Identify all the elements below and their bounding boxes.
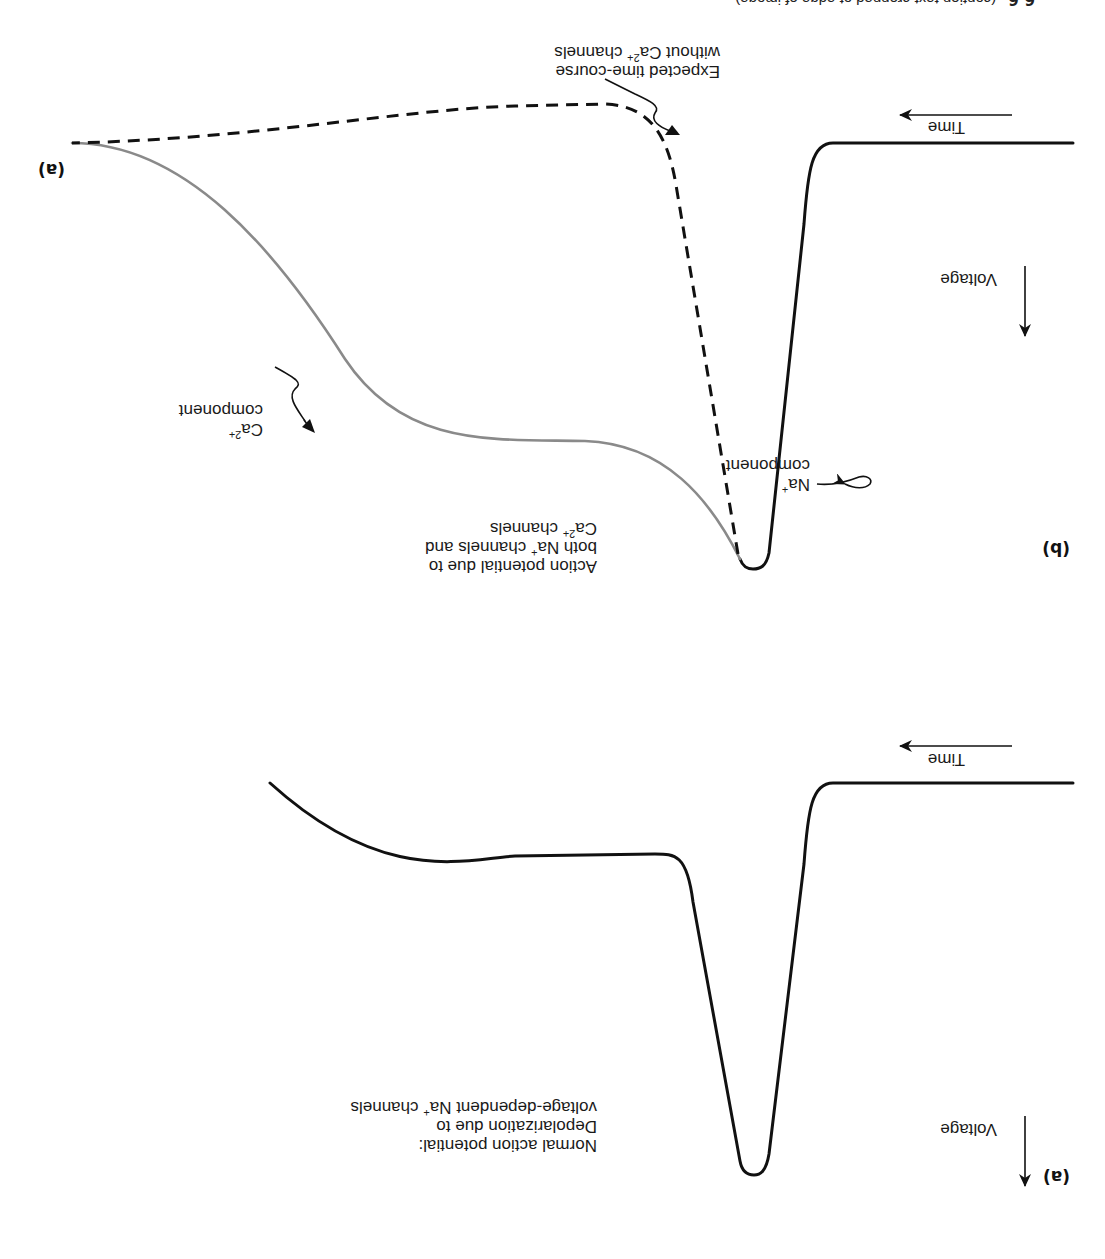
diagram-canvas [0, 0, 1105, 1259]
panel-b-na-component-label: Na+ component [726, 456, 810, 494]
panel-a-voltage-axis-label: Voltage [940, 1120, 997, 1139]
panel-b-voltage-axis-label: Voltage [940, 270, 997, 289]
panel-b-ca-component-label: Ca2+ component [179, 401, 263, 439]
panel-b-label: (b) [1042, 539, 1070, 559]
panel-a-label-upright: (a) [1043, 1167, 1070, 1187]
panel-a-label: (a) [38, 160, 65, 180]
panel-b-expected-label: Expected time-course without Ca2+ channe… [554, 43, 720, 81]
panel-a-annotation: Normal action potential: Depolarization … [350, 1098, 597, 1155]
panel-b-na-pointer-squiggle [817, 476, 871, 487]
panel-b-ca-component-trace [72, 143, 740, 559]
panel-b-main-annotation: Action potential due to both Na+ channel… [425, 519, 597, 576]
panel-b-time-axis-label: Time [928, 118, 965, 137]
action-potential-figure: 6.6 (caption text cropped at edge of ima… [0, 0, 1105, 1259]
panel-a-time-axis-label: Time [928, 750, 965, 769]
panel-b-na-component-trace [740, 143, 1073, 569]
panel-b-diagram [72, 79, 1073, 569]
panel-b-ca-pointer-squiggle [275, 367, 305, 421]
